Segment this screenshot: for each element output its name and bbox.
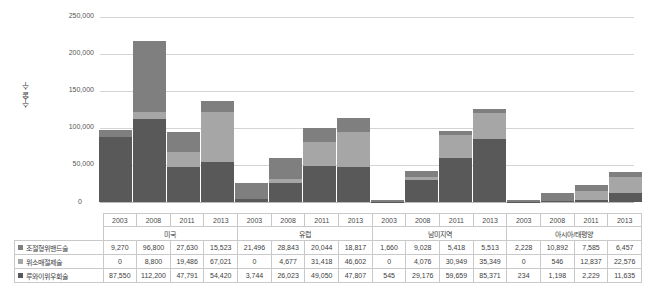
- bar-segment: [609, 177, 642, 194]
- bar-segment: [303, 142, 336, 165]
- table-cell: 12,837: [574, 255, 608, 269]
- table-cell: 46,602: [339, 255, 373, 269]
- table-corner-cell: [15, 227, 104, 241]
- table-region-header: 유럽: [238, 227, 373, 241]
- y-axis-tick-label: 100,000: [46, 123, 94, 130]
- bar-segment: [99, 130, 132, 137]
- table-cell: 0: [372, 255, 406, 269]
- data-table: 2003200820112013200320082011201320032008…: [14, 213, 642, 283]
- plot-area: 50,000100,000150,000200,000250,000: [100, 17, 634, 202]
- table-cell: 29,176: [406, 269, 440, 283]
- table-cell: 11,635: [608, 269, 642, 283]
- bar-segment: [303, 128, 336, 143]
- table-cell: 26,023: [271, 269, 305, 283]
- table-cell: 54,420: [204, 269, 238, 283]
- table-cell: 2,229: [574, 269, 608, 283]
- bar-segment: [473, 113, 506, 139]
- table-region-header: 미국: [103, 227, 238, 241]
- table-cell: 85,371: [473, 269, 507, 283]
- table-year-header: 2003: [103, 214, 137, 227]
- table-cell: 112,200: [137, 269, 171, 283]
- table-year-header: 2013: [608, 214, 642, 227]
- bar-segment: [405, 180, 438, 202]
- bar-column: [235, 183, 268, 202]
- table-cell: 21,496: [238, 241, 272, 255]
- table-year-header: 2008: [137, 214, 171, 227]
- table-cell: 20,044: [305, 241, 339, 255]
- sleeve-swatch: [18, 259, 23, 264]
- bar-segment: [303, 166, 336, 202]
- bar-segment: [405, 171, 438, 178]
- axis-baseline: [100, 202, 634, 203]
- table-year-header: 2011: [574, 214, 608, 227]
- table-year-header: 2003: [238, 214, 272, 227]
- table-cell: 3,744: [238, 269, 272, 283]
- table-row: 조절형위밴드술9,27096,80027,63015,52321,49628,8…: [15, 241, 642, 255]
- table-region-header: 남미지역: [372, 227, 507, 241]
- table-cell: 5,418: [440, 241, 474, 255]
- table-cell: 18,817: [339, 241, 373, 255]
- bar-segment: [541, 193, 574, 201]
- bar-column: [371, 200, 404, 202]
- table-cell: 10,892: [541, 241, 575, 255]
- table-row-label: 위소매절제술: [15, 255, 104, 269]
- table-header-row-regions: 미국유럽남미지역아시아/태평양: [15, 227, 642, 241]
- table-cell: 15,523: [204, 241, 238, 255]
- table-year-header: 2013: [339, 214, 373, 227]
- table-region-header: 아시아/태평양: [507, 227, 642, 241]
- bar-segment: [133, 41, 166, 113]
- table-row-label: 조절형위밴드술: [15, 241, 104, 255]
- bar-segment: [167, 152, 200, 166]
- table-cell: 0: [103, 255, 137, 269]
- table-cell: 59,659: [440, 269, 474, 283]
- table-cell: 27,630: [170, 241, 204, 255]
- table-cell: 9,270: [103, 241, 137, 255]
- y-axis-tick-label: 0: [78, 198, 82, 205]
- table-cell: 1,660: [372, 241, 406, 255]
- bar-column: [507, 200, 540, 202]
- table-cell: 22,576: [608, 255, 642, 269]
- bar-segment: [201, 112, 234, 162]
- bar-segment: [337, 167, 370, 202]
- bar-column: [609, 172, 642, 202]
- table-year-header: 2011: [170, 214, 204, 227]
- bar-column: [99, 130, 132, 202]
- bar-segment: [575, 200, 608, 202]
- table-year-header: 2013: [204, 214, 238, 227]
- bar-column: [439, 131, 472, 202]
- bar-segment: [235, 183, 268, 199]
- y-axis-tick-label: 200,000: [46, 49, 94, 56]
- bar-segment: [201, 162, 234, 202]
- bar-segment: [235, 199, 268, 202]
- legend-label: 루와이위우회술: [26, 273, 68, 280]
- table-row-label: 루와이위우회술: [15, 269, 104, 283]
- table-cell: 49,050: [305, 269, 339, 283]
- table-year-header: 2011: [440, 214, 474, 227]
- table-cell: 4,677: [271, 255, 305, 269]
- table-year-header: 2008: [406, 214, 440, 227]
- table-cell: 4,076: [406, 255, 440, 269]
- bar-column: [201, 101, 234, 202]
- table-year-header: 2011: [305, 214, 339, 227]
- table-cell: 6,457: [608, 241, 642, 255]
- table-cell: 9,028: [406, 241, 440, 255]
- bar-column: [167, 132, 200, 202]
- table-cell: 19,486: [170, 255, 204, 269]
- bar-series-container: [100, 17, 634, 202]
- table-cell: 545: [372, 269, 406, 283]
- bar-segment: [337, 132, 370, 166]
- y-axis-tick-label: 150,000: [46, 86, 94, 93]
- table-cell: 0: [507, 255, 541, 269]
- bar-segment: [167, 167, 200, 202]
- table-corner-cell: [15, 214, 104, 227]
- table-cell: 7,585: [574, 241, 608, 255]
- bar-segment: [337, 118, 370, 132]
- chart-page: 수술 수 50,000100,000150,000200,000250,000 …: [0, 0, 656, 302]
- bar-column: [303, 128, 336, 202]
- table-year-header: 2013: [473, 214, 507, 227]
- table-cell: 0: [238, 255, 272, 269]
- bar-column: [269, 158, 302, 202]
- table-cell: 234: [507, 269, 541, 283]
- table-year-header: 2003: [507, 214, 541, 227]
- table-cell: 96,800: [137, 241, 171, 255]
